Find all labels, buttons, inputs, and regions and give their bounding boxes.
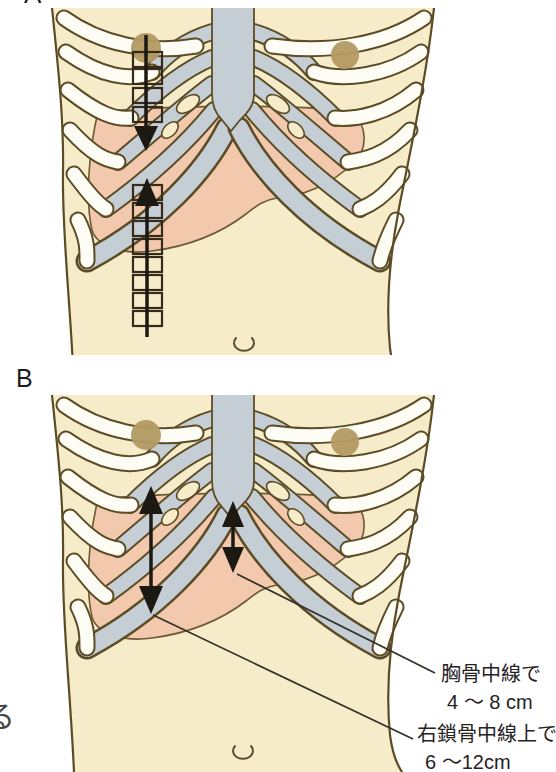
annotation-midclavicular-name: 右鎖骨中線上で bbox=[417, 723, 556, 745]
panel-b-label: B bbox=[16, 365, 33, 393]
annotation-sternal-midline-value: 4 〜 8 cm bbox=[447, 691, 533, 713]
figure-page: A B 胸骨中線で 4 〜 8 cm 右鎖骨中線上で 6 〜12cm る bbox=[0, 0, 556, 772]
annotation-sternal-midline-name: 胸骨中線で bbox=[441, 663, 541, 685]
annotation-midclavicular-value: 6 〜12cm bbox=[425, 751, 511, 772]
panel-b-figure bbox=[0, 395, 556, 772]
panel-a-figure bbox=[0, 8, 556, 355]
panel-a-label: A bbox=[24, 0, 41, 9]
cropped-caption-character: る bbox=[0, 700, 15, 733]
